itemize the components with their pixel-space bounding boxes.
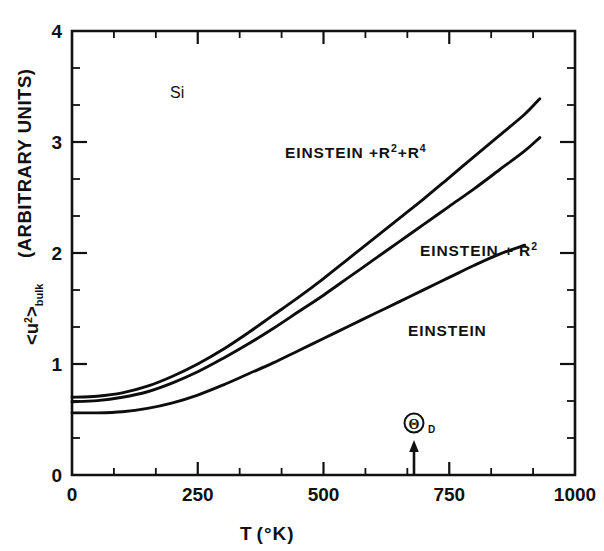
curve-label-einstein-r2-r4: EINSTEIN +R2+R4 — [285, 142, 426, 161]
debye-temperature-marker: Θ D — [405, 414, 436, 476]
curve-label-einstein-r2-r4-sup1: 2 — [391, 142, 398, 154]
y-axis-title-units: (ARBITRARY UNITS) — [14, 69, 35, 258]
x-tick-label: 250 — [182, 484, 214, 505]
chart-svg: 02505007501000 01234 EINSTEIN +R2+R4 EIN… — [0, 0, 604, 551]
y-axis-title-sub: bulk — [33, 283, 45, 306]
x-tick-label: 1000 — [554, 484, 596, 505]
x-axis-tick-labels: 02505007501000 — [67, 484, 596, 505]
curve-label-einstein-r2-main: EINSTEIN + R — [420, 242, 531, 259]
y-axis-title: <u2>bulk (ARBITRARY UNITS) — [14, 69, 45, 345]
curve-label-einstein-r2-sup1: 2 — [531, 240, 538, 252]
svg-text:EINSTEIN: EINSTEIN — [408, 322, 487, 339]
figure-container: 02505007501000 01234 EINSTEIN +R2+R4 EIN… — [0, 0, 604, 551]
x-tick-label: 750 — [433, 484, 465, 505]
y-tick-label: 4 — [51, 21, 62, 42]
curve-label-einstein-r2-r4-mid: +R — [398, 144, 420, 161]
curve-label-einstein-main: EINSTEIN — [408, 322, 487, 339]
material-label: Si — [170, 84, 184, 101]
x-tick-label: 0 — [67, 484, 78, 505]
curve-label-einstein-r2: EINSTEIN + R2 — [420, 240, 538, 259]
x-tick-label: 500 — [308, 484, 340, 505]
y-tick-label: 2 — [51, 243, 62, 264]
curve-label-einstein: EINSTEIN — [408, 322, 487, 339]
curve-series-1 — [72, 138, 540, 402]
svg-text:EINSTEIN +R2+R4: EINSTEIN +R2+R4 — [285, 142, 426, 161]
theta-symbol: Θ — [409, 417, 420, 432]
y-axis-title-symbol-part: <u2>bulk — [21, 283, 45, 345]
x-axis-title-units: (°K) — [257, 523, 295, 544]
x-axis-title-main: T — [240, 523, 253, 544]
x-axis-title: T(°K) — [240, 523, 295, 544]
svg-text:T(°K): T(°K) — [240, 523, 295, 544]
theta-subscript-d: D — [428, 424, 435, 435]
svg-text:EINSTEIN + R2: EINSTEIN + R2 — [420, 240, 538, 259]
marker-arrow-head-icon — [409, 440, 419, 452]
y-tick-label: 3 — [51, 132, 62, 153]
y-axis-tick-labels: 01234 — [51, 21, 62, 486]
curve-label-einstein-r2-r4-sup2: 4 — [420, 142, 427, 154]
y-tick-label: 0 — [51, 465, 62, 486]
curve-label-einstein-r2-r4-main: EINSTEIN +R — [285, 144, 391, 161]
y-tick-label: 1 — [51, 354, 62, 375]
y-axis-title-symbol: <u — [21, 323, 42, 345]
y-axis-title-mid: > — [21, 306, 42, 317]
